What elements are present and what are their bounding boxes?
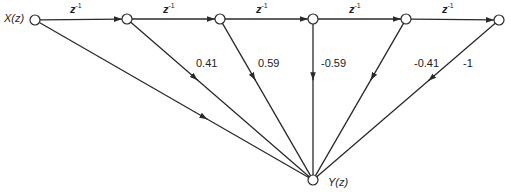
delay-branch-1 — [40, 19, 122, 20]
coefficient-arrow-1 — [196, 79, 198, 80]
delay-branch-5 — [411, 19, 494, 20]
coefficient-arrow-0 — [206, 118, 208, 119]
coefficient-label-3: -0.59 — [321, 57, 346, 69]
coefficient-branch-5 — [317, 23, 495, 176]
delay-label-2: z-1 — [163, 2, 175, 15]
node-n5 — [494, 15, 504, 25]
node-x — [30, 15, 40, 25]
coefficient-branch-0 — [39, 22, 308, 177]
coefficient-arrow-5 — [428, 79, 430, 80]
coefficient-label-2: 0.59 — [258, 57, 279, 69]
coefficient-label-1: 0.41 — [196, 57, 217, 69]
output-label: Y(z) — [328, 176, 348, 188]
coefficient-label-4: -0.41 — [414, 57, 439, 69]
node-n4 — [401, 14, 411, 24]
input-label: X(z) — [4, 12, 24, 24]
delay-label-5: z-1 — [442, 2, 454, 15]
node-y — [308, 175, 318, 185]
node-n2 — [215, 14, 225, 24]
node-n1 — [122, 14, 132, 24]
delay-label-1: z-1 — [70, 2, 82, 15]
coefficient-arrow-4 — [371, 78, 372, 80]
coefficient-label-5: -1 — [463, 57, 473, 69]
signal-flow-graph — [0, 0, 511, 192]
delay-label-4: z-1 — [349, 2, 361, 15]
coefficient-arrow-2 — [254, 78, 255, 80]
coefficient-branch-1 — [131, 22, 309, 176]
node-n3 — [308, 14, 318, 24]
delay-label-3: z-1 — [256, 2, 268, 15]
coefficient-branch-4 — [316, 23, 404, 175]
